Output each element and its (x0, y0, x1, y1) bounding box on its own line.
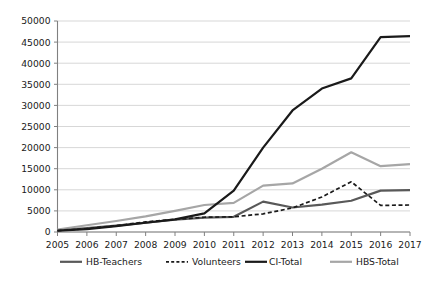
x-tick-label: 2012 (251, 239, 274, 250)
y-axis (54, 21, 58, 232)
y-tick-label: 40000 (21, 58, 50, 69)
x-axis (58, 232, 411, 236)
series-line-ci-total (58, 36, 411, 231)
y-tick-label: 30000 (21, 100, 50, 111)
x-tick-label: 2015 (340, 239, 364, 250)
x-tick-label: 2005 (46, 239, 70, 250)
y-tick-label: 35000 (21, 79, 50, 90)
series-line-hb-teachers (58, 190, 411, 230)
chart-canvas: 0500010000150002000025000300003500040000… (0, 0, 425, 282)
legend-label-ci-total: CI-Total (269, 256, 302, 267)
x-tick-label: 2007 (105, 239, 129, 250)
y-tick-label: 25000 (21, 121, 50, 132)
x-tick-label: 2013 (281, 239, 305, 250)
x-tick-label: 2010 (193, 239, 217, 250)
x-tick-label: 2009 (163, 239, 187, 250)
x-tick-label: 2006 (75, 239, 99, 250)
line-chart: 0500010000150002000025000300003500040000… (0, 0, 425, 282)
x-tick-label: 2016 (369, 239, 393, 250)
x-tick-label: 2017 (398, 239, 422, 250)
data-series (58, 36, 411, 231)
chart-legend: HB-TeachersVolunteersCI-TotalHBS-Total (60, 256, 399, 267)
x-tick-label: 2014 (310, 239, 334, 250)
y-tick-label: 5000 (27, 205, 51, 216)
x-tick-label: 2011 (222, 239, 245, 250)
y-tick-label: 15000 (21, 163, 50, 174)
y-tick-label: 50000 (21, 15, 50, 26)
y-tick-labels: 0500010000150002000025000300003500040000… (21, 15, 50, 237)
legend-label-hbs-total: HBS-Total (356, 256, 399, 267)
x-tick-label: 2008 (134, 239, 158, 250)
y-tick-label: 20000 (21, 142, 50, 153)
y-tick-label: 10000 (21, 184, 50, 195)
x-tick-labels: 2005200620072008200920102011201220132014… (46, 239, 422, 250)
legend-label-hb-teachers: HB-Teachers (86, 256, 142, 267)
y-tick-label: 0 (45, 226, 51, 237)
y-tick-label: 45000 (21, 37, 50, 48)
legend-label-volunteers: Volunteers (192, 256, 241, 267)
gridlines (58, 21, 411, 232)
